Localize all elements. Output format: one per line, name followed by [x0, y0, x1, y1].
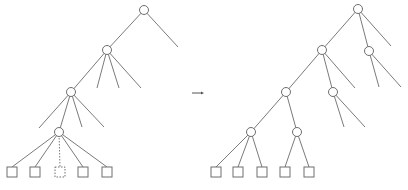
left-tree-leaf-square — [7, 167, 17, 177]
arrow-head — [201, 92, 204, 95]
right-tree-leaf-square — [280, 167, 290, 177]
left-tree — [7, 6, 178, 178]
left-tree-leaf-square — [78, 167, 88, 177]
left-tree-edge-dotted — [59, 132, 60, 167]
left-tree-edge — [144, 10, 178, 47]
right-tree-edge — [285, 132, 297, 167]
right-tree-node-circle — [354, 5, 363, 14]
transform-arrow-icon — [192, 92, 204, 95]
left-tree-edge — [71, 92, 104, 127]
right-tree-node-circle — [293, 128, 302, 137]
left-tree-edge — [12, 132, 59, 167]
right-tree-node-circle — [365, 47, 374, 56]
left-tree-node-circle — [55, 128, 64, 137]
right-tree-edge — [286, 50, 322, 92]
left-tree-node-circle — [67, 88, 76, 97]
right-tree-leaf-square — [304, 167, 314, 177]
right-tree-node-circle — [318, 46, 327, 55]
left-tree-edge — [107, 50, 141, 88]
right-tree-edge — [297, 132, 309, 167]
right-tree-edge — [216, 132, 251, 167]
right-tree-node-circle — [247, 128, 256, 137]
left-tree-leaf-square — [30, 167, 40, 177]
right-tree-edge — [238, 132, 251, 167]
right-tree-leaf-square — [211, 167, 221, 177]
diagram-canvas — [0, 0, 408, 190]
right-tree — [211, 5, 401, 178]
right-tree-edge — [251, 132, 262, 167]
left-tree-node-circle — [140, 6, 149, 15]
left-tree-edge — [107, 50, 119, 88]
right-tree-edge — [322, 9, 358, 50]
left-tree-edge — [39, 92, 71, 128]
right-tree-edge — [286, 92, 297, 132]
left-tree-edge — [107, 10, 144, 50]
right-tree-leaf-square — [233, 167, 243, 177]
left-tree-edge — [59, 132, 83, 167]
right-tree-node-circle — [329, 88, 338, 97]
left-tree-node-circle — [103, 46, 112, 55]
right-tree-node-circle — [282, 88, 291, 97]
right-tree-edge — [251, 92, 286, 132]
right-tree-leaf-square — [257, 167, 267, 177]
left-tree-leaf-square-dashed — [55, 167, 65, 177]
left-tree-edge — [59, 132, 107, 167]
tree-transformation-diagram — [0, 0, 408, 190]
left-tree-edge — [35, 132, 59, 167]
right-tree-edge — [333, 92, 365, 127]
right-tree-edge — [333, 92, 344, 127]
left-tree-leaf-square — [102, 167, 112, 177]
